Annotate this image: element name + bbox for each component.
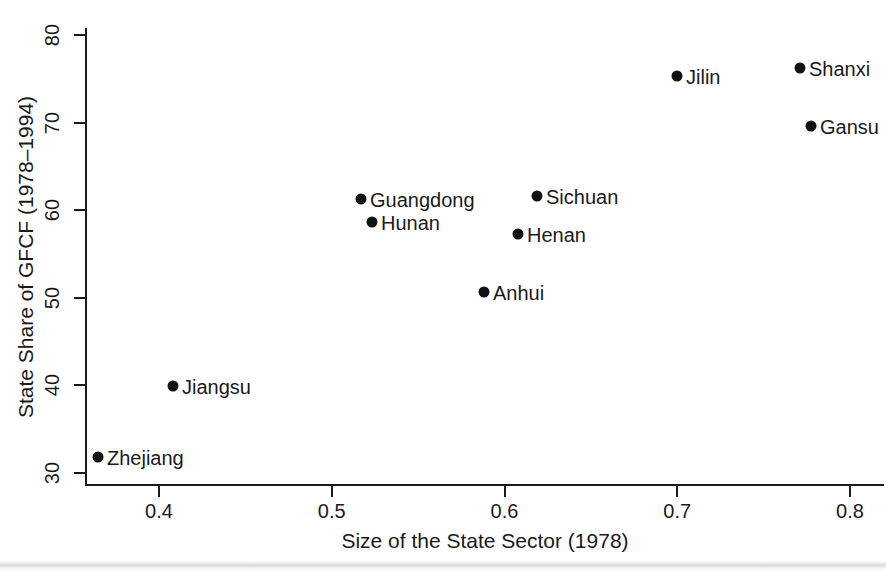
- y-axis-tick: [74, 209, 85, 211]
- x-axis-tick: [676, 486, 678, 497]
- x-axis-line: [85, 484, 884, 486]
- data-point-label: Jilin: [686, 66, 720, 89]
- x-axis-tick-label: 0.5: [318, 500, 346, 523]
- data-point-label: Sichuan: [546, 186, 618, 209]
- data-point-marker[interactable]: [532, 191, 543, 202]
- x-axis-tick-label: 0.7: [663, 500, 691, 523]
- data-point-marker[interactable]: [672, 71, 683, 82]
- y-axis-line: [85, 28, 87, 486]
- y-axis-tick-label: 70: [41, 111, 64, 133]
- data-point-marker[interactable]: [479, 287, 490, 298]
- y-axis-tick-label: 40: [41, 374, 64, 396]
- x-axis-tick: [849, 486, 851, 497]
- y-axis-tick-label: 60: [41, 199, 64, 221]
- y-axis-tick: [74, 122, 85, 124]
- y-axis-tick-label: 50: [41, 287, 64, 309]
- y-axis-tick: [74, 297, 85, 299]
- data-point-label: Anhui: [493, 282, 544, 305]
- data-point-marker[interactable]: [367, 217, 378, 228]
- y-axis-tick-label: 80: [41, 24, 64, 46]
- x-axis-tick-label: 0.8: [836, 500, 864, 523]
- data-point-label: Shanxi: [809, 58, 870, 81]
- x-axis-tick: [158, 486, 160, 497]
- x-axis-tick-label: 0.4: [145, 500, 173, 523]
- data-point-marker[interactable]: [168, 381, 179, 392]
- data-point-marker[interactable]: [356, 194, 367, 205]
- data-point-marker[interactable]: [795, 63, 806, 74]
- y-axis-tick: [74, 34, 85, 36]
- data-point-label: Guangdong: [370, 189, 475, 212]
- x-axis-tick-label: 0.6: [491, 500, 519, 523]
- x-axis-tick: [504, 486, 506, 497]
- x-axis-title: Size of the State Sector (1978): [341, 529, 628, 553]
- data-point-marker[interactable]: [93, 452, 104, 463]
- data-point-marker[interactable]: [806, 121, 817, 132]
- data-point-label: Zhejiang: [107, 447, 184, 470]
- data-point-label: Henan: [527, 224, 586, 247]
- scan-artifact-band: [0, 561, 886, 571]
- y-axis-tick: [74, 384, 85, 386]
- data-point-marker[interactable]: [513, 229, 524, 240]
- y-axis-title: State Share of GFCF (1978–1994): [14, 96, 38, 418]
- y-axis-tick-label: 30: [41, 462, 64, 484]
- y-axis-tick: [74, 472, 85, 474]
- data-point-label: Jiangsu: [182, 376, 251, 399]
- x-axis-tick: [331, 486, 333, 497]
- scatter-plot-figure: 304050607080 0.40.50.60.70.8 State Share…: [0, 0, 886, 571]
- data-point-label: Gansu: [820, 116, 879, 139]
- data-point-label: Hunan: [381, 212, 440, 235]
